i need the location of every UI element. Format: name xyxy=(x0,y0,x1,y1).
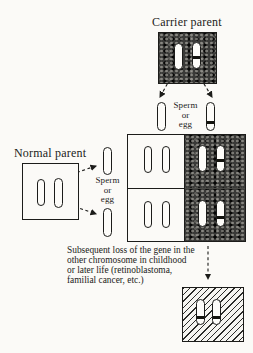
chromosome-normal xyxy=(37,179,45,206)
tumor-cell xyxy=(182,287,244,342)
chromosome-mutated xyxy=(216,145,225,172)
normal-parent-label: Normal parent xyxy=(14,146,86,161)
offspring-cell-unaffected xyxy=(128,189,185,241)
chromosome-normal xyxy=(198,145,207,172)
gamete-label-line: egg xyxy=(167,120,204,130)
caption-line: or later life (retinoblastoma, xyxy=(67,265,217,275)
carrier-parent-label: Carrier parent xyxy=(152,15,222,30)
chromosome-mutated xyxy=(212,299,221,325)
caption-line: Subsequent loss of the gene in the xyxy=(67,245,217,255)
caption-text: Subsequent loss of the gene in the other… xyxy=(67,245,217,285)
chromosome-mutated xyxy=(196,299,205,325)
gamete-chromosome-normal xyxy=(103,208,112,237)
mutation-band xyxy=(207,121,214,124)
retinoblastoma-inheritance-diagram: Carrier parent Sperm or egg Normal paren… xyxy=(0,0,253,353)
gamete-chromosome-normal xyxy=(157,102,166,131)
chromosome-normal xyxy=(162,201,170,228)
mutation-band xyxy=(193,56,200,59)
offspring-cell-carrier xyxy=(185,189,245,241)
chromosome-normal xyxy=(144,201,152,228)
chromosome-normal xyxy=(174,43,183,70)
carrier-parent-cell xyxy=(158,32,217,84)
offspring-cell-unaffected xyxy=(128,135,185,189)
chromosome-normal xyxy=(54,178,63,208)
normal-gamete-label: Sperm or egg xyxy=(89,176,126,205)
chromosome-normal xyxy=(198,200,207,227)
chromosome-normal xyxy=(162,146,170,173)
mutation-band xyxy=(217,159,224,162)
caption-line: familial cancer, etc.) xyxy=(67,275,217,285)
chromosome-mutated xyxy=(192,42,201,69)
normal-parent-cell xyxy=(22,163,79,220)
offspring-cell-carrier xyxy=(185,135,245,189)
mutation-band xyxy=(217,216,224,219)
gamete-label-line: egg xyxy=(89,195,126,205)
mutation-band xyxy=(197,316,204,319)
offspring-grid xyxy=(127,134,246,242)
chromosome-mutated xyxy=(216,200,225,227)
gamete-chromosome-mutated xyxy=(206,102,215,131)
mutation-band xyxy=(213,316,220,319)
carrier-gamete-label: Sperm or egg xyxy=(167,101,204,130)
gamete-chromosome-normal xyxy=(103,147,112,175)
caption-line: other chromosome in childhood xyxy=(67,255,217,265)
chromosome-normal xyxy=(144,146,152,173)
